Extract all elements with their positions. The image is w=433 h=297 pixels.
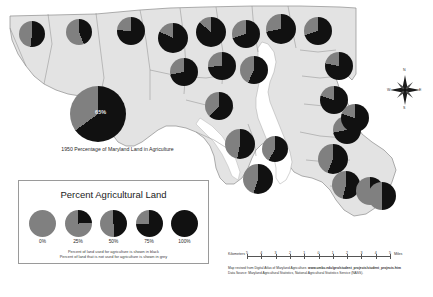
- scale-number-2: 3: [275, 251, 277, 255]
- maryland-agriculture-map: 65% 1950 Percentage of Maryland Land in …: [0, 0, 433, 297]
- scale-number-0: 5: [246, 251, 248, 255]
- scale-number-9: 4: [375, 251, 377, 255]
- statewide-pie-caption: 1950 Percentage of Maryland Land in Agri…: [20, 146, 215, 152]
- legend-label-row: 0%25%50%75%100%: [29, 239, 198, 244]
- compass-rose: N S E W: [386, 68, 424, 112]
- legend-note-line-2: Percent of land that is not used for agr…: [19, 254, 208, 259]
- statewide-pie-group: 65% 1950 Percentage of Maryland Land in …: [57, 86, 177, 158]
- legend-label-50: 50%: [100, 239, 127, 244]
- legend-swatch-row: [29, 207, 198, 239]
- credits-block: Map revised from Digital Atlas of Maryla…: [228, 266, 428, 277]
- legend-title: Percent Agricultural Land: [19, 189, 208, 200]
- county-pie-kent: [325, 52, 353, 80]
- county-pie-allegany: [66, 19, 92, 45]
- credits-source-prefix: Map revised from Digital Atlas of Maryla…: [228, 266, 308, 270]
- scale-number-3: 2: [289, 251, 291, 255]
- legend-swatch-100: [171, 210, 198, 237]
- county-pie-worcester: [368, 182, 396, 210]
- county-pie-anne-arundel: [240, 56, 268, 84]
- county-pie-cecil: [304, 17, 332, 45]
- statewide-pie-value: 65%: [95, 109, 106, 115]
- legend-label-100: 100%: [171, 239, 198, 244]
- scale-number-6: 1: [332, 251, 334, 255]
- legend-swatch-0: [29, 210, 56, 237]
- scale-bar: Kilometers Miles 54321012345: [228, 251, 406, 261]
- compass-south-label: S: [403, 106, 405, 110]
- scale-number-8: 3: [360, 251, 362, 255]
- scale-unit-miles: Miles: [394, 252, 402, 256]
- legend-note: Percent of land used for agriculture is …: [19, 249, 208, 260]
- county-pie-baltimore: [232, 20, 260, 48]
- legend-swatch-50: [100, 210, 127, 237]
- compass-north-label: N: [403, 68, 406, 72]
- scale-number-7: 2: [346, 251, 348, 255]
- legend-label-25: 25%: [65, 239, 92, 244]
- county-pie-charles: [225, 129, 255, 159]
- scale-number-5: 0: [318, 251, 320, 255]
- county-pie-dorchester: [318, 144, 348, 174]
- county-pie-caroline: [341, 104, 369, 132]
- legend-label-0: 0%: [29, 239, 56, 244]
- legend-swatch-75: [136, 210, 163, 237]
- scale-number-1: 4: [260, 251, 262, 255]
- county-pie-frederick: [158, 23, 188, 53]
- legend-panel: Percent Agricultural Land 0%25%50%75%100…: [18, 180, 209, 264]
- scale-unit-kilometers: Kilometers: [228, 252, 245, 256]
- legend-swatch-25: [65, 210, 92, 237]
- compass-west-label: W: [387, 88, 390, 92]
- county-pie-howard: [208, 52, 236, 80]
- compass-east-label: E: [419, 88, 421, 92]
- county-pie-montgomery: [170, 58, 198, 86]
- county-pie-harford: [266, 14, 296, 44]
- scale-number-4: 1: [303, 251, 305, 255]
- legend-label-75: 75%: [136, 239, 163, 244]
- county-pie-washington: [117, 17, 145, 45]
- scale-number-10: 5: [389, 251, 391, 255]
- county-pie-prince-georges: [205, 92, 233, 120]
- credits-url[interactable]: www.umbc.edu/geo/student_projects/studen…: [308, 266, 401, 270]
- county-pie-calvert: [262, 136, 288, 162]
- credits-line-2: Data Source: Maryland Agricultural Stati…: [228, 271, 428, 276]
- county-pie-garrett: [19, 21, 45, 47]
- county-pie-carroll: [196, 17, 226, 47]
- county-pie-st-marys: [243, 164, 273, 194]
